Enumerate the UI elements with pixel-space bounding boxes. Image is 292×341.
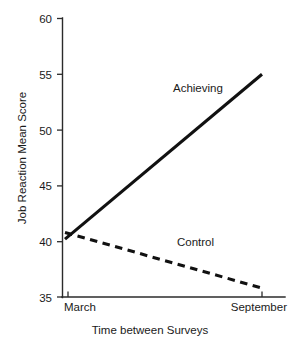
chart-figure: 60 55 50 45 40 35 March September Job Re… <box>0 0 292 341</box>
series-line-control <box>65 232 262 288</box>
y-tick-label-40: 40 <box>39 236 52 248</box>
series-annotation-control: Control <box>177 236 214 248</box>
y-tick-label-55: 55 <box>39 69 52 81</box>
y-tick-label-60: 60 <box>39 13 52 25</box>
y-tick-label-50: 50 <box>39 125 52 137</box>
series-line-achieving <box>65 74 262 239</box>
y-axis-title: Job Reaction Mean Score <box>16 92 28 224</box>
x-axis-title: Time between Surveys <box>92 324 209 336</box>
y-tick-label-35: 35 <box>39 292 52 304</box>
y-tick-label-45: 45 <box>39 180 52 192</box>
line-chart-plot: 60 55 50 45 40 35 March September Job Re… <box>0 0 292 341</box>
x-tick-label-september: September <box>231 301 287 313</box>
x-tick-label-march: March <box>64 301 96 313</box>
series-annotation-achieving: Achieving <box>173 82 223 94</box>
